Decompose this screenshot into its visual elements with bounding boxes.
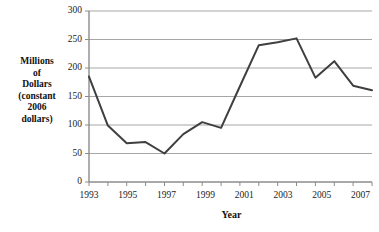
x-tick-label-2001: 2001 [227,190,261,200]
x-axis-title: Year [89,209,374,220]
line-chart-figure: Millions of Dollars (constant 2006 dolla… [0,0,379,232]
y-tick-label-150: 150 [56,91,82,101]
x-tick-label-1999: 1999 [188,190,222,200]
x-tick-label-1997: 1997 [150,190,184,200]
y-axis-title-line-5: 2006 [2,102,72,114]
y-tick-label-300: 300 [56,5,82,15]
y-tick-label-200: 200 [56,62,82,72]
y-tick-label-0: 0 [56,176,82,186]
y-axis-title-line-3: Dollars [2,79,72,91]
data-series-line [89,38,372,153]
y-tick-label-100: 100 [56,119,82,129]
y-tick-label-50: 50 [56,148,82,158]
gridlines [89,11,372,154]
y-tick-label-250: 250 [56,34,82,44]
x-tick-label-1993: 1993 [72,190,106,200]
x-tick-label-1995: 1995 [111,190,145,200]
x-tick-label-2005: 2005 [305,190,339,200]
x-tick-label-2003: 2003 [266,190,300,200]
x-tick-label-2007: 2007 [344,190,378,200]
